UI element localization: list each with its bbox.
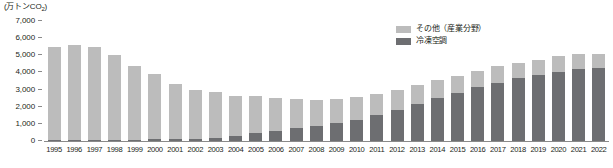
bar-segment-other	[229, 96, 242, 136]
bar-segment-other	[88, 47, 101, 140]
x-axis-tick-label: 2008	[306, 143, 326, 165]
bar-column[interactable]	[145, 21, 165, 141]
bar-segment-refrigeration	[189, 139, 202, 141]
x-axis-tick-label: 1998	[105, 143, 125, 165]
y-axis-tick-label: 0	[31, 135, 35, 146]
bar-segment-other	[310, 100, 323, 126]
legend-item[interactable]: その他（産業分野）	[396, 24, 486, 34]
bar-segment-other	[290, 99, 303, 128]
x-axis-tick-label: 2022	[589, 143, 609, 165]
x-axis-tick-label: 2021	[568, 143, 588, 165]
chart-legend: その他（産業分野）冷凍空調	[396, 24, 486, 46]
bar-segment-refrigeration	[68, 140, 81, 141]
bar-stack	[491, 66, 504, 141]
bar-segment-refrigeration	[290, 128, 303, 141]
bar-stack	[512, 63, 525, 141]
bar-column[interactable]	[589, 21, 609, 141]
bar-segment-other	[471, 71, 484, 87]
bar-segment-other	[350, 97, 363, 119]
bar-stack	[310, 100, 323, 141]
bar-stack	[350, 97, 363, 141]
bar-column[interactable]	[548, 21, 568, 141]
y-axis-tick-label: 3,000	[15, 84, 35, 95]
bar-column[interactable]	[84, 21, 104, 141]
bar-column[interactable]	[488, 21, 508, 141]
bar-column[interactable]	[347, 21, 367, 141]
x-axis-tick-label: 2018	[508, 143, 528, 165]
bar-segment-other	[169, 84, 182, 139]
bar-stack	[471, 71, 484, 141]
y-axis-tick: 7,000	[15, 15, 44, 26]
bar-segment-other	[451, 76, 464, 93]
bar-column[interactable]	[306, 21, 326, 141]
bar-segment-other	[391, 90, 404, 111]
bar-segment-other	[592, 54, 605, 69]
bar-stack	[189, 90, 202, 141]
bar-column[interactable]	[226, 21, 246, 141]
legend-swatch-icon	[396, 38, 411, 45]
bar-segment-refrigeration	[249, 133, 262, 141]
bar-segment-refrigeration	[532, 75, 545, 141]
bar-column[interactable]	[568, 21, 588, 141]
bar-segment-other	[370, 94, 383, 115]
bar-segment-other	[411, 85, 424, 104]
bar-segment-other	[128, 66, 141, 139]
legend-swatch-icon	[396, 26, 411, 33]
y-axis-tick-mark	[38, 106, 42, 107]
bar-segment-other	[512, 63, 525, 78]
bar-segment-refrigeration	[128, 140, 141, 141]
bar-segment-other	[269, 98, 282, 131]
bar-column[interactable]	[125, 21, 145, 141]
x-axis-tick-label: 2005	[246, 143, 266, 165]
y-axis: 7,0006,0005,0004,0003,0002,0001,0000	[0, 0, 44, 168]
x-axis-tick-label: 2014	[427, 143, 447, 165]
bar-segment-refrigeration	[229, 136, 242, 141]
y-axis-tick-mark	[38, 89, 42, 90]
bar-column[interactable]	[508, 21, 528, 141]
bar-segment-refrigeration	[310, 126, 323, 141]
bar-stack	[552, 56, 565, 141]
x-axis-tick-label: 2017	[488, 143, 508, 165]
bar-column[interactable]	[326, 21, 346, 141]
bar-stack	[592, 54, 605, 141]
bar-segment-refrigeration	[370, 115, 383, 141]
bar-column[interactable]	[528, 21, 548, 141]
bar-column[interactable]	[185, 21, 205, 141]
y-axis-tick-label: 7,000	[15, 15, 35, 26]
bar-segment-other	[68, 45, 81, 140]
bar-column[interactable]	[367, 21, 387, 141]
bar-stack	[451, 76, 464, 141]
bar-column[interactable]	[64, 21, 84, 141]
x-axis-tick-label: 2011	[367, 143, 387, 165]
bar-segment-other	[189, 90, 202, 139]
bar-segment-other	[532, 60, 545, 75]
bar-column[interactable]	[286, 21, 306, 141]
bar-column[interactable]	[205, 21, 225, 141]
y-axis-tick-mark	[38, 20, 42, 21]
bar-segment-refrigeration	[330, 123, 343, 141]
bar-segment-other	[330, 99, 343, 123]
bar-stack	[209, 92, 222, 141]
bar-segment-refrigeration	[431, 98, 444, 141]
bar-column[interactable]	[105, 21, 125, 141]
y-axis-tick-mark	[38, 54, 42, 55]
bar-column[interactable]	[165, 21, 185, 141]
x-axis-tick-label: 2001	[165, 143, 185, 165]
x-axis-tick-label: 2016	[468, 143, 488, 165]
x-axis-tick-label: 1997	[84, 143, 104, 165]
legend-item[interactable]: 冷凍空調	[396, 36, 486, 46]
y-axis-tick: 3,000	[15, 84, 44, 95]
x-axis-tick-label: 2003	[205, 143, 225, 165]
y-axis-tick: 2,000	[15, 101, 44, 112]
bar-stack	[431, 80, 444, 141]
bar-segment-refrigeration	[148, 139, 161, 141]
y-axis-tick-label: 5,000	[15, 49, 35, 60]
bar-segment-refrigeration	[552, 72, 565, 141]
bar-stack	[370, 94, 383, 141]
x-axis-tick-label: 2012	[387, 143, 407, 165]
bar-column[interactable]	[44, 21, 64, 141]
bar-column[interactable]	[246, 21, 266, 141]
bar-stack	[229, 96, 242, 141]
y-axis-tick: 0	[31, 135, 44, 146]
bar-column[interactable]	[266, 21, 286, 141]
